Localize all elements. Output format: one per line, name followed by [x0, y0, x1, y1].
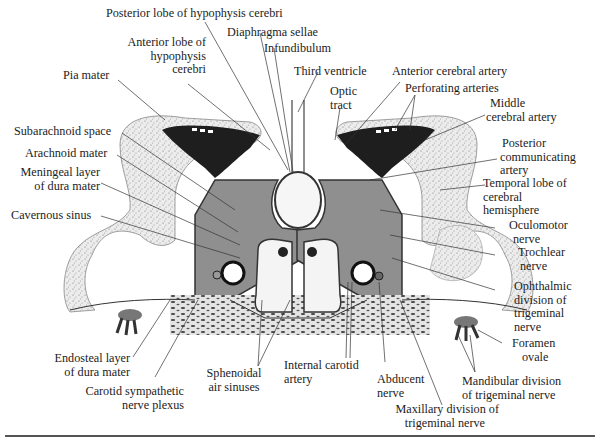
label-trochlear-nerve: Trochlear nerve — [518, 246, 565, 273]
middle-cerebral-arteries — [162, 125, 435, 178]
label-middle-cerebral-artery: Middle cerebral artery — [486, 97, 557, 124]
label-oculomotor-nerve: Oculomotor nerve — [509, 219, 568, 246]
sphenoid-bone — [170, 295, 430, 335]
label-perforating-arteries: Perforating arteries — [405, 82, 499, 96]
label-subarachnoid-space: Subarachnoid space — [14, 125, 111, 139]
infundibulum-stalk — [292, 100, 304, 172]
label-ophthalmic-division: Ophthalmic division of trigeminal nerve — [514, 280, 572, 334]
label-mandibular-division: Mandibular division of trigeminal nerve — [462, 375, 561, 402]
pituitary-gland — [275, 172, 321, 228]
label-maxillary-division: Maxillary division of trigeminal nerve — [354, 403, 499, 430]
label-diaphragma-sellae: Diaphragma sellae — [227, 26, 318, 40]
label-temporal-lobe: Temporal lobe of cerebral hemisphere — [483, 177, 567, 218]
label-endosteal-layer: Endosteal layer of dura mater — [20, 352, 130, 379]
label-anterior-lobe: Anterior lobe of hypophysis cerebri — [112, 36, 206, 77]
label-arachnoid-mater: Arachnoid mater — [25, 147, 107, 161]
label-foramen-ovale: Foramen ovale — [512, 337, 555, 364]
label-internal-carotid-artery: Internal carotid artery — [284, 359, 359, 386]
label-cavernous-sinus: Cavernous sinus — [11, 209, 91, 223]
label-infundibulum: Infundibulum — [264, 42, 331, 56]
label-posterior-communicating-artery: Posterior communicating artery — [500, 137, 576, 178]
label-meningeal-layer: Meningeal layer of dura mater — [10, 166, 100, 193]
label-third-ventricle: Third ventricle — [294, 65, 367, 79]
label-abducent-nerve: Abducent nerve — [377, 373, 424, 400]
label-carotid-sympathetic-plexus: Carotid sympathetic nerve plexus — [60, 385, 184, 412]
bottom-rule-divider — [5, 435, 595, 437]
label-posterior-lobe: Posterior lobe of hypophysis cerebri — [106, 7, 283, 21]
label-pia-mater: Pia mater — [63, 69, 109, 83]
label-optic-tract: Optic tract — [330, 85, 357, 112]
label-anterior-cerebral-artery: Anterior cerebral artery — [392, 65, 507, 79]
internal-carotid-arteries — [213, 262, 383, 284]
label-sphenoidal-air-sinuses: Sphenoidal air sinuses — [196, 367, 272, 394]
